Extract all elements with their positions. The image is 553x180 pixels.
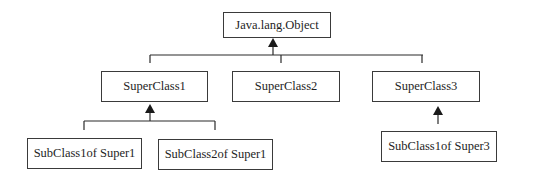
class-label: SubClass2of Super1 — [165, 147, 267, 162]
class-box-superclass1: SuperClass1 — [101, 71, 208, 102]
class-label: SuperClass2 — [255, 79, 318, 94]
class-box-subclass1-of-super3: SubClass1of Super3 — [381, 131, 497, 162]
class-label: SuperClass1 — [123, 79, 186, 94]
class-label: SuperClass3 — [395, 79, 458, 94]
arrowhead-icon — [145, 104, 155, 113]
class-box-superclass3: SuperClass3 — [372, 71, 480, 102]
class-label: SubClass1of Super3 — [388, 139, 490, 154]
arrowhead-icon — [433, 106, 443, 115]
class-box-subclass1-of-super1: SubClass1of Super1 — [27, 138, 142, 169]
arrowhead-icon — [268, 38, 278, 47]
class-label: SubClass1of Super1 — [34, 146, 136, 161]
class-box-subclass2-of-super1: SubClass2of Super1 — [158, 139, 273, 170]
class-label: Java.lang.Object — [235, 18, 318, 33]
class-box-superclass2: SuperClass2 — [232, 71, 340, 102]
class-box-java-lang-object: Java.lang.Object — [223, 12, 331, 38]
